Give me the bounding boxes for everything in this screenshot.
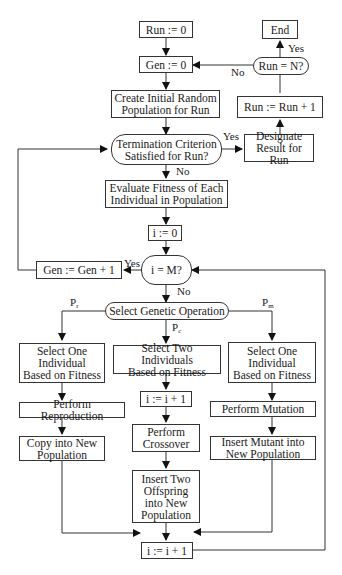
gen-increment-box: Gen := Gen + 1 (36, 261, 122, 279)
run-check-decision: Run = N? (253, 57, 309, 75)
perform-mutation-box: Perform Mutation (210, 401, 316, 417)
gen-init-box: Gen := 0 (139, 56, 193, 73)
select-genetic-operation: Select Genetic Operation (105, 302, 229, 320)
no-label-i-check: No (177, 286, 190, 297)
yes-label-i-check: Yes (124, 258, 140, 269)
run-init-box: Run := 0 (139, 21, 193, 38)
i-check-decision: i = M? (141, 255, 192, 285)
yes-label-end: Yes (288, 43, 304, 54)
select-two-box: Select Two Individuals Based on Fitness (113, 345, 221, 374)
p-c-subscript: c (178, 327, 181, 335)
select-one-mutation-box: Select One Individual Based on Fitness (228, 342, 316, 383)
p-m-subscript: m (268, 302, 273, 310)
copy-new-population-box: Copy into New Population (19, 436, 105, 461)
prob-mutation-label: Pm (262, 297, 274, 312)
prob-crossover-label: Pc (172, 322, 181, 337)
i-increment-box: i := i + 1 (141, 542, 193, 559)
prob-reproduction-label: Pr (70, 297, 78, 312)
run-increment-box: Run := Run + 1 (237, 96, 323, 118)
end-box: End (262, 20, 298, 39)
yes-label-termination: Yes (223, 131, 239, 142)
i-increment-crossover-box: i := i + 1 (140, 391, 192, 407)
perform-crossover-box: Perform Crossover (132, 424, 200, 452)
create-population-box: Create Initial Random Population for Run (111, 90, 220, 118)
evaluate-fitness-box: Evaluate Fitness of Each Individual in P… (105, 180, 228, 208)
insert-two-offspring-box: Insert Two Offspring into New Population (132, 470, 200, 523)
p-r-subscript: r (76, 302, 78, 310)
perform-reproduction-box: Perform Reproduction (19, 402, 125, 418)
insert-mutant-box: Insert Mutant into New Population (210, 436, 316, 460)
select-one-reproduction-box: Select One Individual Based on Fitness (19, 343, 105, 383)
designate-result-box: Designate Result for Run (244, 134, 314, 162)
ga-flowchart: Run := 0 Gen := 0 Create Initial Random … (0, 0, 342, 575)
termination-decision: Termination Criterion Satisfied for Run? (111, 134, 222, 165)
no-label-termination: No (176, 166, 189, 177)
i-init-box: i := 0 (148, 225, 182, 241)
no-label-run: No (231, 67, 244, 78)
